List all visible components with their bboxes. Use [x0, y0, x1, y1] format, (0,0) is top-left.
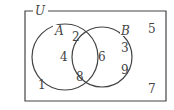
element-8: 8 — [76, 70, 84, 84]
element-4: 4 — [60, 50, 68, 64]
venn-diagram: U A B 2 4 8 6 3 9 1 5 7 — [0, 0, 174, 110]
element-5: 5 — [148, 22, 156, 36]
set-b-label: B — [120, 24, 130, 38]
element-6: 6 — [98, 50, 106, 64]
universe-rectangle — [25, 11, 166, 101]
element-7: 7 — [148, 82, 156, 96]
element-1: 1 — [38, 78, 46, 92]
set-a-label: A — [54, 24, 64, 38]
element-3: 3 — [121, 41, 129, 55]
element-9: 9 — [121, 63, 129, 77]
universe-label: U — [35, 4, 46, 18]
element-2: 2 — [72, 30, 80, 44]
